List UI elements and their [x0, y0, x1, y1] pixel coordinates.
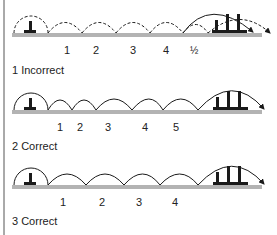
- step-number: 4: [163, 44, 169, 56]
- start-marker-icon: [24, 21, 36, 33]
- step-number: 5: [173, 121, 179, 133]
- row-caption: 2 Correct: [12, 140, 57, 152]
- step-number: 2: [77, 121, 83, 133]
- step-number: 3: [105, 121, 111, 133]
- row-1-incorrect: 1 2 3 4 ½ 1 Incorrect: [12, 14, 270, 76]
- row-caption: 3 Correct: [12, 215, 57, 227]
- ground-bar: [12, 185, 262, 189]
- step-number: 3: [136, 196, 142, 208]
- step-number: 1: [57, 121, 63, 133]
- step-number: 4: [142, 121, 148, 133]
- ground-bar: [12, 110, 262, 114]
- step-number: 3: [130, 44, 136, 56]
- step-number: 4: [172, 196, 178, 208]
- row-caption: 1 Incorrect: [12, 64, 64, 76]
- ground-bar: [12, 33, 262, 37]
- start-marker-icon: [24, 98, 36, 110]
- step-number: 1: [64, 44, 70, 56]
- row-2-correct: 1 2 3 4 5 2 Correct: [12, 91, 264, 152]
- stride-diagram: 1 2 3 4 ½ 1 Incorrect 1 2 3: [0, 0, 277, 235]
- start-marker-icon: [24, 173, 36, 185]
- row-3-correct: 1 2 3 4 3 Correct: [12, 166, 264, 227]
- step-number: 2: [93, 44, 99, 56]
- step-number: 1: [60, 196, 66, 208]
- step-number: 2: [99, 196, 105, 208]
- step-number: ½: [190, 45, 199, 56]
